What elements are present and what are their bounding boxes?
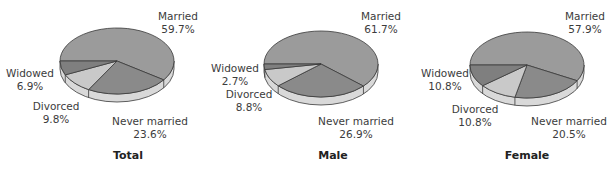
- label-never-married: Never married 23.6%: [112, 115, 188, 141]
- pie-panel-female: Married 57.9% Widowed 10.8% Divorced 10.…: [405, 0, 610, 170]
- chart-title-female: Female: [487, 149, 567, 162]
- label-widowed: Widowed 6.9%: [4, 67, 56, 93]
- label-divorced: Divorced 9.8%: [28, 100, 84, 126]
- label-widowed: Widowed 2.7%: [209, 62, 261, 88]
- label-divorced: Divorced 10.8%: [447, 103, 503, 129]
- label-divorced: Divorced 8.8%: [221, 88, 277, 114]
- label-never-married: Never married 26.9%: [318, 115, 394, 141]
- label-widowed: Widowed 10.8%: [417, 67, 473, 93]
- pie-panel-total: Married 59.7% Widowed 6.9% Divorced 9.8%…: [0, 0, 205, 170]
- chart-title-male: Male: [293, 149, 373, 162]
- pie-panel-male: Married 61.7% Widowed 2.7% Divorced 8.8%…: [205, 0, 410, 170]
- chart-title-total: Total: [88, 149, 168, 162]
- label-never-married: Never married 20.5%: [531, 115, 607, 141]
- label-married: Married 61.7%: [350, 10, 412, 36]
- label-married: Married 59.7%: [148, 10, 208, 36]
- label-married: Married 57.9%: [555, 10, 610, 36]
